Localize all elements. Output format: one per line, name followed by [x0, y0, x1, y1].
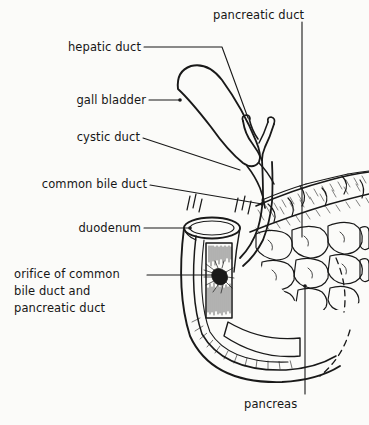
pancreas-hidden-contour: [320, 258, 350, 376]
label-pancreas: pancreas: [244, 397, 297, 412]
common-bile-duct: [240, 160, 273, 266]
duodenum-outer-wall: [181, 228, 340, 382]
anatomical-figure: pancreatic duct hepatic duct gall bladde…: [0, 0, 369, 425]
leader-cystic-duct: [143, 138, 240, 170]
duodenal-orifice: [204, 261, 234, 293]
label-orifice-line3: pancreatic duct: [14, 301, 105, 316]
duodenum-serosa-shading: [192, 318, 292, 369]
anatomy-illustration: [0, 0, 369, 425]
label-gall-bladder: gall bladder: [0, 93, 146, 108]
label-duodenum: duodenum: [0, 221, 141, 236]
label-orifice-line2: bile duct and: [14, 284, 90, 299]
pancreas-body: [250, 171, 369, 315]
leader-common-bile-duct: [150, 185, 262, 204]
label-cystic-duct: cystic duct: [0, 130, 140, 145]
label-hepatic-duct: hepatic duct: [0, 40, 141, 55]
label-pancreatic-duct: pancreatic duct: [213, 8, 304, 23]
label-orifice-line1: orifice of common: [14, 267, 120, 282]
label-common-bile-duct: common bile duct: [0, 177, 147, 192]
duodenum-cut-rim: [184, 218, 240, 241]
